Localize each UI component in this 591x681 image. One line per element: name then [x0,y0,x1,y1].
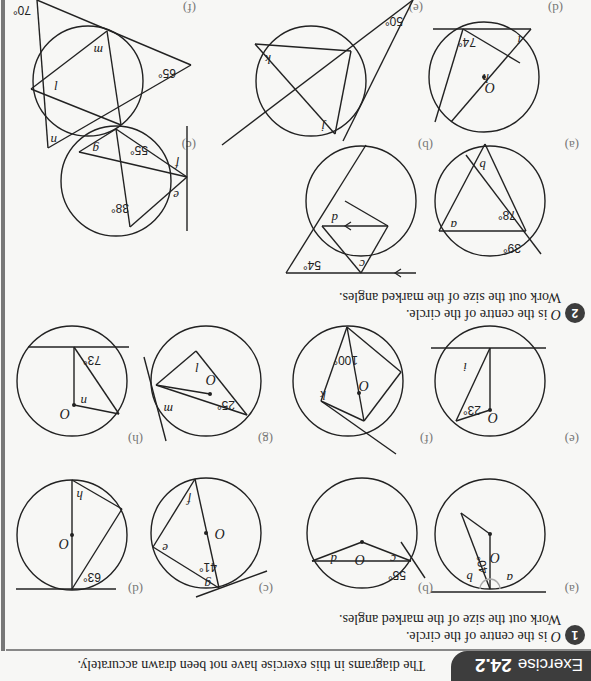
svg-text:(d): (d) [128,582,143,597]
q1b-diagram: (b) O 55° c d [307,478,433,597]
svg-text:m: m [164,402,173,417]
svg-text:41°: 41° [199,560,217,574]
q1a-diagram: (a) O a b 40° [431,479,579,597]
svg-text:100°: 100° [333,353,358,367]
svg-text:O: O [355,552,365,567]
q1e-diagram: (e) O 23° i [431,326,579,447]
svg-text:O: O [488,410,498,425]
svg-text:(e): (e) [565,432,579,447]
q1g-diagram: (g) O 25° m l [144,326,273,447]
svg-text:(g): (g) [258,432,273,447]
svg-text:78°: 78° [498,208,516,222]
svg-text:23°: 23° [463,403,481,417]
q1f-diagram: (f) O 100° k [293,326,433,454]
svg-text:i: i [463,360,467,375]
svg-text:25°: 25° [217,398,235,412]
q2f-diagram: (f) 65° 70° l m n [13,0,196,148]
svg-text:63°: 63° [83,570,101,584]
svg-text:70°: 70° [13,3,31,17]
q2b-diagram: (b) 54° c d [286,138,433,277]
svg-text:40°: 40° [474,554,491,575]
svg-text:O: O [490,550,500,565]
svg-text:O: O [59,536,69,551]
svg-text:n: n [81,394,88,409]
svg-text:(d): (d) [548,1,563,16]
svg-text:k: k [265,52,271,67]
svg-text:a: a [450,218,457,233]
svg-text:65°: 65° [158,66,176,80]
svg-text:55°: 55° [130,143,148,157]
svg-text:(b): (b) [418,138,433,153]
svg-text:l: l [54,78,58,93]
q1c-diagram: (c) O 41° g e f [151,478,273,597]
svg-text:73°: 73° [83,353,101,367]
svg-text:38°: 38° [111,201,129,215]
svg-text:(a): (a) [565,138,579,153]
svg-text:d: d [330,552,337,567]
svg-text:j: j [321,120,327,135]
svg-text:b: b [466,570,473,585]
svg-text:c: c [390,552,396,567]
svg-text:O: O [206,372,216,387]
svg-text:c: c [359,257,365,272]
svg-text:O: O [60,406,70,421]
q1h-diagram: (h) O 73° n [17,326,143,447]
svg-text:O: O [215,526,225,541]
svg-text:f: f [185,493,191,508]
svg-text:55°: 55° [388,568,406,582]
svg-text:74°: 74° [458,35,476,49]
svg-text:50°: 50° [385,14,403,28]
svg-text:i: i [517,33,521,48]
q1d-diagram: (d) O 63° h [16,480,143,597]
svg-text:(c): (c) [182,138,196,153]
q2d-diagram: (d) O 74° h i [429,1,563,132]
svg-text:h: h [483,71,490,86]
svg-text:(f): (f) [183,1,196,16]
svg-text:n: n [51,133,58,148]
q2e-diagram: (e) 50° j k [222,0,423,145]
svg-text:h: h [77,488,84,503]
svg-text:d: d [331,211,338,226]
textbook-page: Exercise24.2 The diagrams in this exerci… [0,0,591,681]
svg-text:m: m [94,43,103,58]
svg-text:g: g [92,142,99,157]
q2a-diagram: (a) 39° 78° a b [435,138,579,256]
svg-text:f: f [173,157,179,172]
q2c-diagram: (c) 38° 55° e f g [61,126,196,236]
svg-text:e: e [173,188,179,203]
svg-text:(f): (f) [420,432,433,447]
svg-text:(b): (b) [418,582,433,597]
svg-text:e: e [162,541,168,556]
diagrams: (a) O a b 40° (b) O 55° c d [0,0,591,681]
svg-text:l: l [195,360,199,375]
svg-text:O: O [359,378,369,393]
svg-text:g: g [204,577,211,592]
svg-text:54°: 54° [303,258,321,272]
svg-text:(h): (h) [128,432,143,447]
svg-text:(c): (c) [259,582,273,597]
svg-text:k: k [320,388,326,403]
svg-text:(a): (a) [565,582,579,597]
svg-text:b: b [479,158,486,173]
svg-text:39°: 39° [503,241,521,255]
svg-text:a: a [506,571,513,586]
